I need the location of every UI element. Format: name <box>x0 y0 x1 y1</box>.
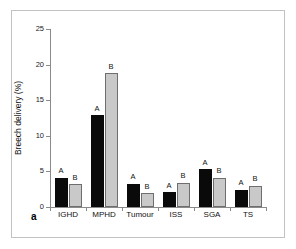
x-axis-label-tumour: Tumour <box>126 211 153 219</box>
x-tick-mark <box>50 207 51 211</box>
bar-annotation-tumour-a: A <box>130 173 135 181</box>
figure-panel-a: Breech delivery (%) 0510152025 ABABABABA… <box>0 0 296 249</box>
y-axis-title: Breech delivery (%) <box>14 81 23 155</box>
x-tick-mark <box>230 207 231 211</box>
y-tick-mark <box>46 171 50 172</box>
y-tick-label: 15 <box>36 96 44 104</box>
bar-tumour-b <box>141 193 154 207</box>
x-axis-label-iss: ISS <box>170 211 183 219</box>
x-axis-label-sga: SGA <box>204 211 221 219</box>
bar-annotation-ighd-a: A <box>58 167 63 175</box>
bar-ighd-b <box>69 184 82 207</box>
y-tick-label: 25 <box>36 25 44 33</box>
x-axis-label-ighd: IGHD <box>58 211 78 219</box>
bar-iss-b <box>177 183 190 207</box>
x-tick-mark <box>266 207 267 211</box>
bar-annotation-mphd-b: B <box>108 63 113 71</box>
x-tick-mark <box>158 207 159 211</box>
bar-sga-a <box>199 169 212 207</box>
bar-ts-a <box>235 190 248 207</box>
bar-tumour-a <box>127 184 140 207</box>
bar-annotation-ighd-b: B <box>72 174 77 182</box>
bar-mphd-a <box>91 115 104 207</box>
bar-annotation-tumour-b: B <box>144 183 149 191</box>
y-tick-mark <box>46 29 50 30</box>
x-axis-label-mphd: MPHD <box>92 211 116 219</box>
bar-annotation-sga-b: B <box>216 167 221 175</box>
x-tick-mark <box>86 207 87 211</box>
bar-mphd-b <box>105 73 118 207</box>
bar-annotation-iss-a: A <box>166 182 171 190</box>
bar-sga-b <box>213 178 226 207</box>
y-tick-mark <box>46 65 50 66</box>
panel-label: a <box>31 212 37 222</box>
bar-annotation-ts-a: A <box>238 179 243 187</box>
y-tick-label: 20 <box>36 61 44 69</box>
y-tick-mark <box>46 136 50 137</box>
x-axis-label-ts: TS <box>243 211 253 219</box>
y-tick-mark <box>46 100 50 101</box>
bar-ts-b <box>249 186 262 207</box>
y-tick-label: 0 <box>40 203 44 211</box>
bar-iss-a <box>163 192 176 207</box>
x-tick-mark <box>194 207 195 211</box>
y-tick-label: 5 <box>40 168 44 176</box>
bar-annotation-ts-b: B <box>252 175 257 183</box>
plot-area: 0510152025 ABABABABABAB <box>50 29 266 207</box>
y-tick-label: 10 <box>36 132 44 140</box>
bar-annotation-sga-a: A <box>202 159 207 167</box>
bar-annotation-mphd-a: A <box>94 105 99 113</box>
bar-annotation-iss-b: B <box>180 172 185 180</box>
bar-ighd-a <box>55 178 68 207</box>
x-tick-mark <box>122 207 123 211</box>
